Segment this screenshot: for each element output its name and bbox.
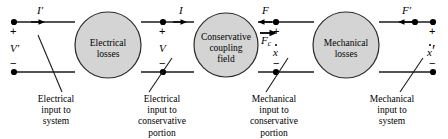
port-label-v-symbol: V [159, 42, 166, 54]
energy-flow-block-diagram: Electrical losses Conservative coupling … [0, 0, 448, 139]
flow-label-force-prime: F′ [402, 5, 411, 16]
leader-line-mechanical-input-to-system [400, 58, 423, 92]
polarity-plus-mid-left: + [159, 26, 165, 37]
caption-line: conservative [116, 116, 208, 127]
block-label-mechanical-losses-line2: losses [306, 49, 386, 60]
caption-line: Electrical [116, 94, 208, 105]
polarity-plus-mid-right: + [273, 26, 279, 37]
flow-label-i: I [179, 5, 183, 16]
flow-label-force-symbol: F [262, 4, 269, 16]
block-label-electrical-losses: Electrical losses [68, 38, 148, 60]
caption-line: system [348, 116, 436, 127]
block-label-conservative-coupling-field-line2: coupling [186, 43, 266, 54]
arrow-i [173, 19, 187, 25]
caption-line: Mechanical [348, 94, 436, 105]
caption-line: input to [348, 105, 436, 116]
block-label-electrical-losses-line1: Electrical [68, 38, 148, 49]
port-label-v-prime: V′ [10, 43, 19, 54]
xdot-overdot-icon [275, 44, 277, 46]
block-label-electrical-losses-line2: losses [68, 49, 148, 60]
block-label-conservative-coupling-field-line1: Conservative [186, 32, 266, 43]
flow-label-force: F [262, 5, 269, 16]
caption-line: input to [116, 105, 208, 116]
arrow-force-prime [398, 19, 412, 25]
terminal-dot-left-negative [11, 69, 17, 75]
flow-label-force-prime-mark: ′ [409, 4, 411, 16]
xdot-prime-overdot-icon [429, 44, 431, 46]
caption-line: portion [228, 128, 320, 139]
flow-label-force-c: Fc [261, 35, 271, 47]
flow-label-i-prime: I′ [37, 5, 43, 16]
polarity-minus-right: − [429, 58, 435, 69]
caption-line: conservative [228, 116, 320, 127]
terminal-dot-right-negative [430, 69, 436, 75]
arrow-i-prime [31, 19, 45, 25]
caption-electrical-input-to-conservative-portion: Electrical input to conservative portion [116, 94, 208, 139]
flow-label-force-c-symbol: F [261, 34, 268, 46]
caption-mechanical-input-to-conservative-portion: Mechanical input to conservative portion [228, 94, 320, 139]
polarity-plus-left: + [10, 26, 16, 37]
port-label-v-prime-symbol: V [10, 42, 17, 54]
block-label-mechanical-losses: Mechanical losses [306, 38, 386, 60]
polarity-minus-mid-left: − [159, 58, 165, 69]
caption-line: Electrical [16, 94, 96, 105]
flow-label-force-prime-symbol: F [402, 4, 409, 16]
caption-line: portion [116, 128, 208, 139]
flow-label-i-symbol: I [179, 4, 183, 16]
polarity-plus-right: + [429, 26, 435, 37]
caption-line: system [16, 116, 96, 127]
caption-line: input to [16, 105, 96, 116]
caption-line: input to [228, 105, 320, 116]
leader-line-electrical-input-to-system [38, 35, 62, 92]
polarity-minus-mid-right: − [273, 58, 279, 69]
block-label-mechanical-losses-line1: Mechanical [306, 38, 386, 49]
caption-line: Mechanical [228, 94, 320, 105]
flow-label-i-prime-mark: ′ [41, 4, 43, 16]
arrow-force [258, 19, 272, 25]
block-label-conservative-coupling-field-line3: field [186, 54, 266, 65]
node-dot-right-inner [412, 19, 418, 25]
flow-label-force-c-subscript: c [268, 39, 271, 48]
block-label-conservative-coupling-field: Conservative coupling field [186, 32, 266, 65]
port-label-v-prime-mark: ′ [17, 42, 19, 54]
caption-electrical-input-to-system: Electrical input to system [16, 94, 96, 128]
polarity-minus-left: − [10, 58, 16, 69]
port-label-v: V [159, 43, 166, 54]
caption-mechanical-input-to-system: Mechanical input to system [348, 94, 436, 128]
